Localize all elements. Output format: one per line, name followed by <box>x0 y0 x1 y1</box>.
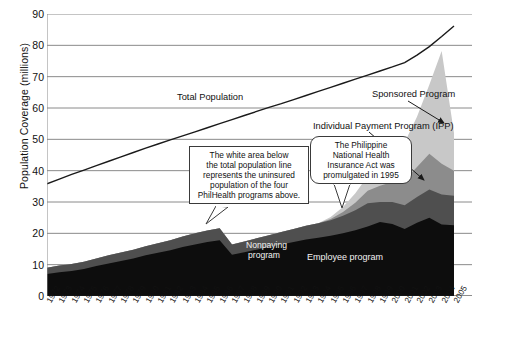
y-axis-tick-labels: 0102030405060708090 <box>0 0 44 342</box>
y-tick-60: 60 <box>14 102 44 114</box>
y-tick-10: 10 <box>14 259 44 271</box>
white-area-callout: The white area belowthe total population… <box>189 146 309 204</box>
white-area-callout-line-3: represents the uninsured <box>194 170 304 180</box>
annotation-nonpaying-line2: program <box>248 250 280 260</box>
annotation-nonpaying-line1: Nonpaying <box>246 240 287 250</box>
philhealth-act-callout-line-2: National Health <box>315 150 407 160</box>
y-tick-80: 80 <box>14 39 44 51</box>
y-tick-0: 0 <box>14 290 44 302</box>
white-area-callout-line-2: the total population line <box>194 160 304 170</box>
philhealth-act-callout-line-3: Insurance Act was <box>315 160 407 170</box>
annotation-employee-program: Employee program <box>307 252 383 262</box>
annotation-sponsored-program: Sponsored Program <box>372 89 455 99</box>
y-tick-30: 30 <box>14 196 44 208</box>
white-area-callout-line-4: population of the four <box>194 180 304 190</box>
y-tick-90: 90 <box>14 8 44 20</box>
philhealth-act-callout-line-1: The Philippine <box>315 140 407 150</box>
white-area-callout-line-1: The white area below <box>194 150 304 160</box>
philhealth-act-callout-line-4: promulgated in 1995 <box>315 170 407 180</box>
y-tick-20: 20 <box>14 227 44 239</box>
white-area-callout-line-5: PhilHealth programs above. <box>194 190 304 200</box>
y-tick-50: 50 <box>14 133 44 145</box>
chart-figure: Population Coverage (millions) 010203040… <box>0 0 512 342</box>
y-tick-40: 40 <box>14 165 44 177</box>
annotation-total-population: Total Population <box>177 92 243 102</box>
philhealth-act-callout: The PhilippineNational HealthInsurance A… <box>310 136 412 184</box>
y-tick-70: 70 <box>14 71 44 83</box>
annotation-ipp: Individual Payment Program (IPP) <box>313 121 454 131</box>
